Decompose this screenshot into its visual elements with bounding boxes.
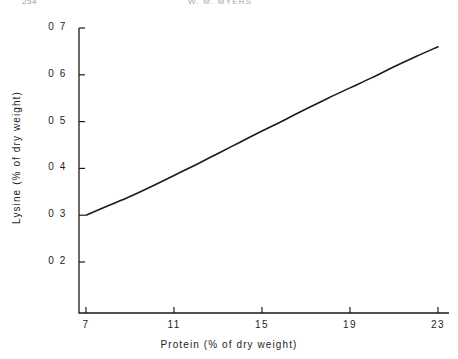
y-axis-tick-label: 0 7 [27, 21, 67, 32]
y-axis-tick-label: 0 5 [27, 115, 67, 126]
x-axis-tick-label: 11 [154, 319, 194, 330]
axis-spines [79, 28, 449, 313]
chart-canvas [0, 0, 458, 359]
x-axis-tick-label: 7 [66, 319, 106, 330]
x-axis-tick-label: 23 [418, 319, 458, 330]
x-axis-tick-label: 19 [330, 319, 370, 330]
y-axis-tick-label: 0 3 [27, 208, 67, 219]
y-axis-tick-label: 0 2 [27, 255, 67, 266]
y-axis-title-wrap: Lysine (% of dry weight) [4, 0, 28, 320]
y-axis-title: Lysine (% of dry weight) [11, 68, 22, 248]
figure-page: 254 W. M. MYERS 0 20 30 40 50 60 7 71115… [0, 0, 458, 359]
x-axis-title: Protein (% of dry weight) [0, 339, 458, 350]
y-axis-tick-label: 0 4 [27, 161, 67, 172]
x-axis-tick-label: 15 [242, 319, 282, 330]
data-series-line [86, 47, 438, 215]
y-axis-tick-label: 0 6 [27, 68, 67, 79]
line-chart: 0 20 30 40 50 60 7 711151923 Lysine (% o… [0, 0, 458, 359]
